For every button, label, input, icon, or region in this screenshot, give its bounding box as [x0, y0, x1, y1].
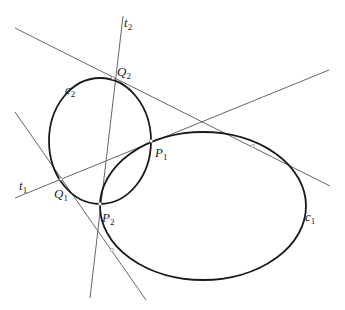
label-t2: t2: [124, 15, 132, 32]
label-p1: P1: [154, 145, 167, 162]
tangent-line-q1: [15, 112, 146, 300]
point-tangency-1: [251, 144, 254, 147]
label-q2: Q2: [117, 64, 131, 81]
label-p2: P2: [101, 210, 114, 227]
point-p2: [98, 202, 101, 205]
label-c2: c2: [65, 82, 75, 99]
label-t1: t1: [19, 178, 27, 195]
point-p1: [149, 139, 152, 142]
ellipse-c1: [100, 132, 306, 280]
label-c1: c1: [305, 209, 315, 226]
tangent-line-q2: [15, 28, 330, 186]
point-q2: [111, 76, 114, 79]
diagram-svg: t2 Q2 c2 P1 t1 Q1 P2 c1: [0, 0, 345, 310]
line-t2: [90, 16, 123, 298]
diagram-canvas: t2 Q2 c2 P1 t1 Q1 P2 c1: [0, 0, 345, 310]
point-q1: [59, 177, 62, 180]
point-tangency-2: [110, 248, 113, 251]
